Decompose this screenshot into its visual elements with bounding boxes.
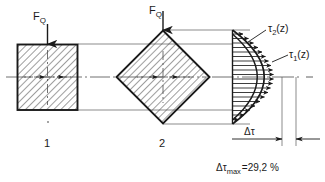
delta-tau-max-label: Δτmax=29,2 % bbox=[216, 163, 279, 176]
force-label-2: FQ bbox=[149, 5, 162, 19]
tau2-label: τ2(z) bbox=[268, 23, 289, 37]
tau2-leader-line bbox=[248, 30, 266, 42]
force-label-1: FQ bbox=[33, 11, 46, 25]
section-label-2: 2 bbox=[159, 138, 165, 149]
square-cross-section bbox=[18, 45, 78, 111]
diamond-cross-section bbox=[117, 31, 210, 124]
delta-tau-label: Δτ bbox=[244, 127, 255, 137]
technical-figure: FQ FQ τ2(z) τ1(z) 1 2 Δτ Δτmax=29,2 % bbox=[0, 0, 325, 182]
tau1-label: τ1(z) bbox=[289, 49, 310, 63]
section-label-1: 1 bbox=[44, 138, 50, 149]
tau1-leader-line bbox=[272, 55, 288, 62]
